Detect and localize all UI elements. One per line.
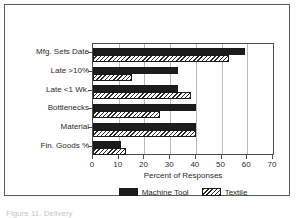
chart-screenshot: Mfg. Sets DateLate >10%Late <1 Wk.Bottle… (0, 0, 298, 218)
legend-label: Textile (225, 188, 248, 197)
bar-group (93, 137, 273, 156)
x-tick-50 (221, 155, 222, 159)
bar-group (93, 63, 273, 82)
bar-textile (93, 111, 160, 118)
y-tick (88, 90, 92, 91)
legend-label: Machine Tool (142, 188, 189, 197)
y-axis-label: Fin. Goods % (41, 141, 89, 150)
bar-group (93, 44, 273, 63)
y-axis-label: Late <1 Wk. (46, 85, 89, 94)
x-tick-10 (118, 155, 119, 159)
figure-caption-sliver: Figure 11. Delivery (6, 209, 73, 218)
bar-machine-tool (93, 48, 245, 55)
y-tick (88, 146, 92, 147)
bar-textile (93, 74, 132, 81)
bar-machine-tool (93, 67, 178, 74)
bar-textile (93, 148, 126, 155)
x-tick-20 (143, 155, 144, 159)
bar-textile (93, 92, 191, 99)
plot-area (92, 43, 274, 155)
legend-swatch-machine-tool (119, 188, 138, 196)
bar-machine-tool (93, 85, 178, 92)
x-axis-title: Percent of Responses (92, 171, 274, 180)
bar-machine-tool (93, 104, 196, 111)
x-tick-40 (195, 155, 196, 159)
y-tick (88, 52, 92, 53)
y-axis-label: Material (61, 122, 89, 131)
x-tick-0 (92, 155, 93, 159)
y-axis-labels: Mfg. Sets DateLate >10%Late <1 Wk.Bottle… (5, 43, 89, 155)
y-tick (88, 108, 92, 109)
chart-legend: Machine ToolTextile (92, 186, 274, 198)
x-tick-label: 50 (211, 160, 231, 169)
legend-entry: Machine Tool (119, 188, 189, 197)
bar-group (93, 119, 273, 138)
x-tick-label: 10 (108, 160, 128, 169)
x-tick-30 (169, 155, 170, 159)
bar-group (93, 100, 273, 119)
bar-textile (93, 130, 196, 137)
bar-machine-tool (93, 123, 196, 130)
legend-entry: Textile (202, 188, 248, 197)
x-tick-label: 40 (185, 160, 205, 169)
x-tick-label: 30 (159, 160, 179, 169)
y-tick (88, 71, 92, 72)
x-tick-label: 0 (82, 160, 102, 169)
y-axis-label: Mfg. Sets Date (36, 47, 89, 56)
x-tick-70 (272, 155, 273, 159)
bar-textile (93, 55, 229, 62)
y-axis-label: Bottlenecks (48, 103, 89, 112)
figure-frame: Mfg. Sets DateLate >10%Late <1 Wk.Bottle… (4, 4, 290, 196)
x-tick-label: 60 (236, 160, 256, 169)
x-tick-label: 20 (133, 160, 153, 169)
bar-machine-tool (93, 141, 121, 148)
x-tick-60 (246, 155, 247, 159)
bar-group (93, 81, 273, 100)
legend-swatch-textile (202, 188, 221, 196)
y-axis-label: Late >10% (51, 66, 89, 75)
y-tick (88, 127, 92, 128)
x-tick-label: 70 (262, 160, 282, 169)
